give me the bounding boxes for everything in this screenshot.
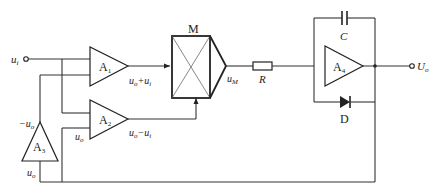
c-label: C: [340, 30, 348, 42]
input-terminal: ui: [11, 53, 90, 67]
resistor-r: R: [253, 62, 272, 85]
a3-input-label: uo: [27, 167, 36, 180]
capacitor-c: C: [340, 11, 348, 42]
r-body: [253, 62, 272, 70]
a1-output-label: uo+ui: [129, 75, 151, 88]
amplifier-a4: A4: [325, 46, 363, 86]
r-label: R: [258, 73, 266, 85]
m-label: M: [188, 22, 199, 36]
output-terminal: Uo: [410, 60, 429, 74]
arrow-a2-to-m: [194, 98, 199, 104]
output-label: Uo: [417, 60, 429, 74]
a4-triangle: [325, 46, 363, 86]
a3-output-label: −uo: [19, 118, 35, 131]
output-terminal-circle: [410, 64, 415, 69]
d-label: D: [340, 112, 349, 126]
m-output-label: uM: [227, 73, 239, 86]
amplifier-a2: A2: [90, 100, 128, 139]
arrow-a1-to-m: [164, 64, 170, 69]
a2-input-label: uo: [75, 131, 84, 144]
m-output-wedge: [210, 36, 226, 98]
a2-output-label: uo−ui: [129, 127, 151, 140]
input-label: ui: [11, 53, 19, 67]
multiplier-m: M: [172, 22, 226, 98]
amplifier-a1: A1: [90, 47, 128, 86]
input-terminal-circle: [24, 57, 29, 62]
circuit-diagram: ui A1 uo+ui A2 uo uo−ui A3 −uo uo M: [0, 0, 438, 194]
diode-d: D: [340, 96, 350, 126]
d-triangle: [340, 96, 350, 108]
